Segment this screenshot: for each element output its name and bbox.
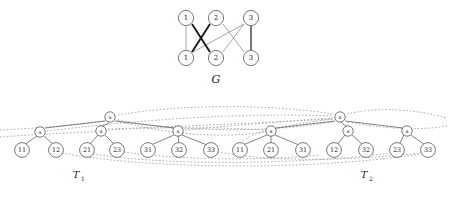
t2-internal-1-label: a [270,128,273,134]
dot-curve-roots-upper [118,107,333,115]
t1-internal-3-label: a [177,128,180,134]
dot-curve-t2-root-far [347,110,446,118]
t2-edge-a1-31 [275,135,299,145]
t1-leaf-5-label: 31 [144,146,152,154]
t1-edge-a3-31 [151,135,174,145]
t1-leaf-3-label: 21 [83,146,91,154]
caption-t1-subscript: 1 [81,175,85,182]
t2-leaf-2: 21 [264,143,279,158]
t1-root: a [105,112,115,122]
t1-leaf-7: 33 [204,143,219,158]
t2-leaf-3: 31 [296,143,311,158]
t2-leaf-2-label: 21 [267,146,275,154]
dot-curve-far-left-edge [0,131,108,137]
t1-internal-2-label: a [100,128,103,134]
t2-internal-3-label: a [406,128,409,134]
t2-leaf-1: 11 [233,143,248,158]
caption-g: G [212,73,221,86]
dot-curve-t1root-t2internal [117,121,264,135]
t1-edge-root-a1 [45,121,105,128]
caption-t2: T 2 [361,169,373,182]
dot-curve-far-left-edge2 [0,120,110,130]
t1-leaf-7-label: 33 [207,146,215,154]
t1-leaf-1: 11 [15,143,30,158]
t1-edge-a3-33 [182,135,207,145]
t1-internal-1: a [35,127,45,137]
t2-edge-a1-11 [243,135,267,145]
g-node-top-1-label: 1 [184,14,188,22]
t2-leaf-5: 32 [359,143,374,158]
caption-t1: T 1 [73,169,85,182]
t2-edge-root-a3 [345,121,403,128]
figure-container: 1 2 3 1 2 3 G [0,0,449,200]
t2-leaf-7-label: 33 [424,146,432,154]
g-node-top-2: 2 [208,10,223,25]
t2-leaf-7: 33 [421,143,436,158]
t2-leaf-6: 23 [390,143,405,158]
t1-internal-2: a [96,126,106,136]
t1-leaf-5: 31 [141,143,156,158]
t2-edge-a2-32 [352,135,363,145]
g-node-top-1: 1 [178,10,193,25]
t1-leaf-6: 32 [172,143,187,158]
t1-leaf-2: 12 [49,143,64,158]
figure-svg: 1 2 3 1 2 3 G [0,0,449,200]
t2-internal-3: a [402,126,412,136]
tree-t2-nodes: a a a a 11 21 [233,112,436,158]
t1-root-label: a [109,114,112,120]
t1-leaf-3: 21 [80,143,95,158]
t1-internal-1-label: a [39,129,42,135]
t2-leaf-3-label: 31 [299,146,307,154]
t2-internal-2-label: a [347,128,350,134]
t2-leaf-4: 12 [327,143,342,158]
t2-internal-1: a [266,126,276,136]
t2-leaf-5-label: 32 [362,146,370,154]
t2-leaf-6-label: 23 [393,146,401,154]
g-node-bottom-1: 1 [178,50,193,65]
t2-internal-2: a [343,126,353,136]
t2-root: a [335,112,345,122]
t1-leaf-4: 23 [110,143,125,158]
g-node-bottom-3-label: 3 [249,54,253,62]
g-node-bottom-1-label: 1 [184,54,188,62]
tree-t1-nodes: a a a a 11 12 [15,112,219,158]
g-node-bottom-2-label: 2 [214,54,218,62]
g-node-top-3: 3 [243,10,258,25]
t1-leaf-6-label: 32 [175,146,183,154]
t2-edge-root-a1 [276,121,335,128]
t2-root-label: a [339,114,342,120]
t2-leaf-4-label: 12 [330,146,338,154]
t1-leaf-4-label: 23 [113,146,121,154]
t1-leaf-2-label: 12 [52,146,60,154]
t2-edge-a3-33 [411,135,425,145]
t1-leaf-1-label: 11 [18,146,26,154]
caption-t2-letter: T [361,169,369,180]
caption-t1-letter: T [73,169,81,180]
g-node-top-3-label: 3 [249,14,253,22]
g-node-bottom-2: 2 [208,50,223,65]
g-node-top-2-label: 2 [214,14,218,22]
caption-t2-subscript: 2 [369,175,373,182]
t2-leaf-1-label: 11 [236,146,244,154]
dotted-matching-curves [0,107,447,166]
graph-g-edges [186,24,251,52]
t1-internal-3: a [173,126,183,136]
g-node-bottom-3: 3 [243,50,258,65]
